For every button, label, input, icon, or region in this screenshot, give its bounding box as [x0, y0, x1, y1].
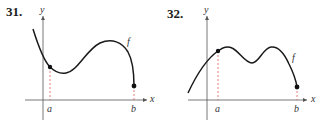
point-a — [216, 49, 220, 53]
function-curve — [188, 47, 297, 93]
function-label: f — [292, 52, 295, 63]
exercise-31-figure: 31. y x f a b — [0, 0, 161, 127]
function-label: f — [127, 36, 130, 47]
a-label: a — [47, 103, 52, 114]
graph-31 — [0, 0, 161, 127]
b-label: b — [294, 103, 299, 114]
b-label: b — [131, 103, 136, 114]
point-b — [295, 85, 300, 90]
x-axis-label: x — [150, 93, 154, 104]
y-axis-label: y — [40, 4, 44, 15]
y-axis-label: y — [204, 4, 208, 15]
point-a — [48, 65, 52, 69]
exercise-32-figure: 32. y x f a b — [161, 0, 322, 127]
a-label: a — [215, 103, 220, 114]
point-b — [132, 84, 137, 89]
function-curve — [33, 29, 134, 86]
x-axis-label: x — [311, 93, 315, 104]
